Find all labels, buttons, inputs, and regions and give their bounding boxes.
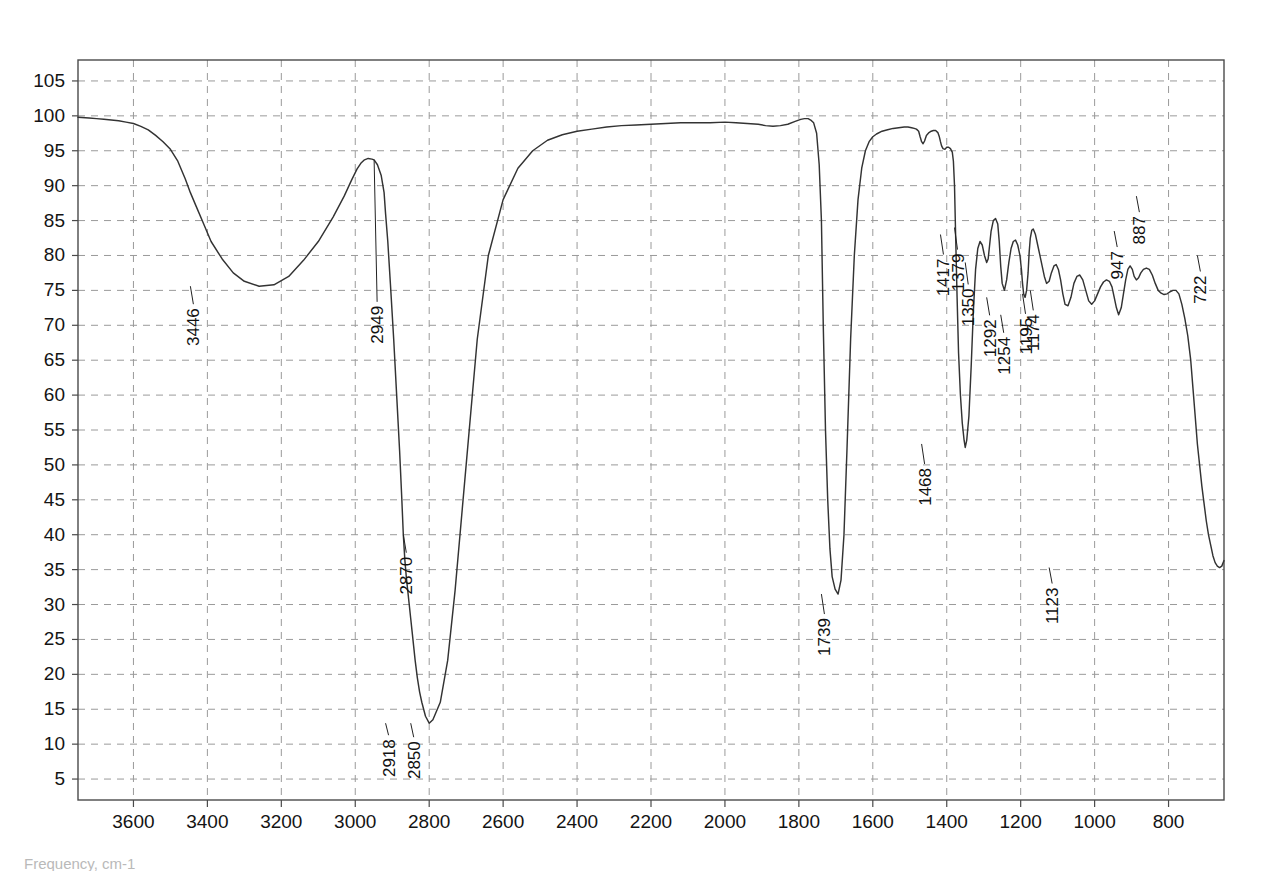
ir-spectrum-figure: 5101520253035404550556065707580859095100… [0, 0, 1262, 871]
y-axis-tick-label: 70 [44, 314, 65, 335]
y-axis-tick-label: 35 [44, 559, 65, 580]
x-axis-tick-label: 800 [1153, 811, 1185, 832]
y-axis-tick-label: 40 [44, 524, 65, 545]
y-axis-tick-label: 45 [44, 489, 65, 510]
y-axis-tick-label: 95 [44, 140, 65, 161]
x-axis-tick-label: 2000 [704, 811, 746, 832]
peak-label: 3446 [184, 308, 203, 346]
y-axis-tick-label: 25 [44, 628, 65, 649]
x-axis-tick-label: 1000 [1073, 811, 1115, 832]
x-axis-tick-labels: 3600340032003000280026002400220020001800… [112, 811, 1184, 832]
y-axis-tick-label: 85 [44, 210, 65, 231]
y-axis-tick-label: 60 [44, 384, 65, 405]
x-axis-tick-label: 3200 [260, 811, 302, 832]
peak-label: 1468 [916, 468, 935, 506]
y-axis-tick-label: 5 [54, 768, 65, 789]
x-axis-tick-label: 1200 [1000, 811, 1042, 832]
y-axis-tick-label: 20 [44, 663, 65, 684]
peak-label: 887 [1130, 216, 1149, 244]
y-axis-tick-label: 50 [44, 454, 65, 475]
peak-label: 2949 [368, 306, 387, 344]
y-axis-tick-label: 90 [44, 175, 65, 196]
peak-label: 1174 [1024, 314, 1043, 351]
x-axis-tick-label: 3400 [186, 811, 228, 832]
peak-label: 2850 [405, 741, 424, 779]
y-axis-tick-label: 15 [44, 698, 65, 719]
peak-label: 1123 [1043, 588, 1062, 625]
x-axis-caption-text: Frequency, cm-1 [24, 855, 135, 871]
x-axis-tick-label: 2400 [556, 811, 598, 832]
x-axis-tick-label: 3000 [334, 811, 376, 832]
figure-background [0, 0, 1262, 871]
x-axis-tick-label: 2200 [630, 811, 672, 832]
peak-label: 2870 [397, 557, 416, 595]
x-axis-tick-label: 2800 [408, 811, 450, 832]
x-axis-tick-label: 3600 [112, 811, 154, 832]
y-axis-tick-label: 80 [44, 244, 65, 265]
y-axis-tick-label: 10 [44, 733, 65, 754]
y-axis-tick-label: 100 [33, 105, 65, 126]
x-axis-tick-label: 1800 [778, 811, 820, 832]
x-axis-tick-label: 1400 [926, 811, 968, 832]
y-axis-tick-label: 75 [44, 279, 65, 300]
y-axis-tick-label: 105 [33, 70, 65, 91]
x-axis-tick-label: 1600 [852, 811, 894, 832]
y-axis-tick-label: 55 [44, 419, 65, 440]
peak-label: 1739 [815, 618, 834, 656]
y-axis-tick-label: 30 [44, 594, 65, 615]
x-axis-tick-label: 2600 [482, 811, 524, 832]
peak-label: 722 [1191, 275, 1210, 303]
peak-label: 1350 [959, 288, 978, 326]
peak-label: 1379 [949, 254, 968, 292]
peak-label: 2918 [380, 739, 399, 777]
peak-label: 947 [1108, 251, 1127, 279]
peak-label: 1254 [995, 337, 1014, 375]
y-axis-tick-label: 65 [44, 349, 65, 370]
spectrum-canvas: 5101520253035404550556065707580859095100… [0, 0, 1262, 871]
x-axis-caption: Frequency, cm-1 [24, 855, 135, 871]
